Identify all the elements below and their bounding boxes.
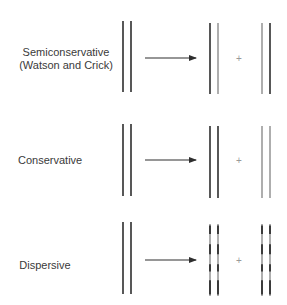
plus-sign: + (236, 53, 242, 64)
plus-sign: + (236, 155, 242, 166)
plus-sign: + (236, 255, 242, 266)
replication-diagram: +++ (0, 0, 287, 305)
